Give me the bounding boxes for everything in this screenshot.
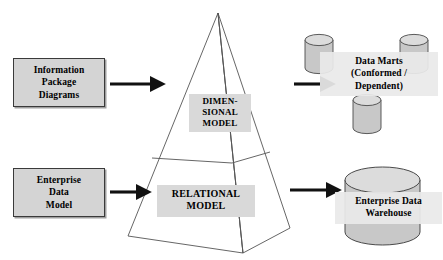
source-line: Information xyxy=(34,64,85,76)
tier-line: MODEL xyxy=(191,118,249,129)
pyramid-shape xyxy=(128,13,290,253)
diagram-canvas: Information Package Diagrams Enterprise … xyxy=(0,0,443,260)
pyramid-tier-label-dimensional-model: DIMEN- SIONAL MODEL xyxy=(189,94,251,132)
target-line: Enterprise Data xyxy=(337,195,440,207)
tier-line: DIMEN- xyxy=(191,96,249,107)
target-line: Warehouse xyxy=(337,207,440,219)
tier-line: RELATIONAL xyxy=(159,188,253,200)
target-line: Data Marts xyxy=(322,55,436,67)
tier-line: SIONAL xyxy=(191,107,249,118)
target-label-enterprise-data-warehouse: Enterprise Data Warehouse xyxy=(335,192,442,224)
target-line: Dependent) xyxy=(322,80,436,92)
source-line: Data xyxy=(37,186,81,198)
source-box-information-package-diagrams[interactable]: Information Package Diagrams xyxy=(13,58,105,107)
source-line: Diagrams xyxy=(34,89,85,101)
source-box-enterprise-data-model[interactable]: Enterprise Data Model xyxy=(13,168,105,217)
data-mart-cylinder-bottom xyxy=(353,94,381,133)
target-label-data-marts: Data Marts (Conformed / Dependent) xyxy=(320,52,438,96)
source-line: Package xyxy=(34,76,85,88)
target-line: (Conformed / xyxy=(322,67,436,79)
pyramid-tier-label-relational-model: RELATIONAL MODEL xyxy=(157,185,255,217)
tier-line: MODEL xyxy=(159,200,253,212)
source-line: Enterprise xyxy=(37,174,81,186)
source-line: Model xyxy=(37,199,81,211)
